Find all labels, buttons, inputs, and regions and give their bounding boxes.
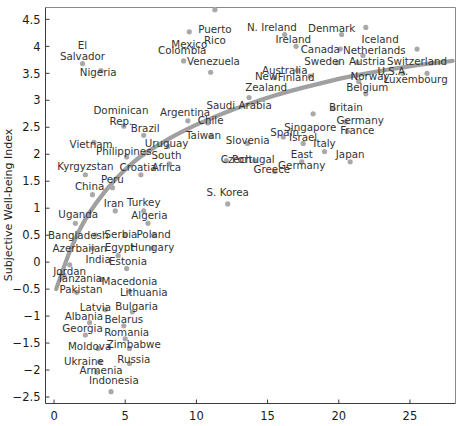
data-point-label: Italy [313,137,335,149]
y-axis-title: Subjective Well-being Index [2,128,15,281]
label-line: New [255,70,277,82]
data-point [414,46,419,51]
label-line: Luxembourg [384,73,448,85]
data-point-label: Lithuania [120,286,168,298]
label-line: Hungary [130,241,174,253]
label-line: Saudi Arabia [206,99,271,111]
label-line: Algeria [131,209,167,221]
data-point-label: Denmark [308,22,355,34]
y-tick-label: 4 [33,40,40,54]
data-point [187,29,192,34]
data-point-label: Serbia [105,228,138,240]
data-point [208,70,213,75]
label-line: Poland [137,228,171,240]
label-line: Moldova [68,340,111,352]
data-point-label: Sweden [304,55,345,67]
data-point-labels: PuertoRicoMexicoN. IrelandDenmarkIceland… [48,21,448,387]
label-line: Sweden [304,55,345,67]
label-line: Venezuela [187,55,240,67]
data-point-label: N. Ireland [247,21,297,33]
label-line: S. Korea [207,186,249,198]
data-point-label: Uganda [58,208,98,220]
data-point-label: Algeria [131,209,167,221]
label-line: Zealand [245,81,287,93]
label-line: Italy [313,137,335,149]
data-point-label: Estonia [109,255,147,267]
data-point [322,149,327,154]
x-tick-label: 5 [122,409,129,423]
label-line: Belarus [104,313,143,325]
data-point [124,266,129,271]
data-point [363,25,368,30]
label-line: Georgia [62,322,102,334]
label-line: Bulgaria [115,300,158,312]
data-point-label: Taiwan [185,129,221,141]
y-tick-label: −0.5 [13,282,41,296]
y-tick-label: 0 [33,255,40,269]
data-point-label: China [75,180,104,192]
data-point-label: Bulgaria [115,300,158,312]
label-line: Romania [104,326,149,338]
label-line: Pakistan [60,283,103,295]
x-axis-ticks: 0510152025 [50,400,417,423]
label-line: East [291,148,313,160]
label-line: Brazil [131,122,160,134]
y-tick-label: 4.5 [22,13,40,27]
label-line: India [86,253,111,265]
label-line: Estonia [109,255,147,267]
label-line: Slovenia [226,134,270,146]
data-point-label: Bangladesh [48,229,108,241]
x-tick-label: 15 [260,409,275,423]
x-tick-label: 25 [403,409,418,423]
label-line: China [75,180,104,192]
label-line: N. Ireland [247,21,297,33]
label-line: Britain [329,101,363,113]
x-tick-label: 20 [331,409,346,423]
data-point [212,7,217,12]
data-point [348,159,353,164]
data-point-label: Luxembourg [384,73,448,85]
label-line: Turkey [126,196,161,208]
label-line: Chile [198,114,224,126]
label-line: Taiwan [185,129,221,141]
x-tick-label: 10 [189,409,204,423]
data-point-label: Iran [104,197,124,209]
data-point-label: Croatia [120,161,157,173]
data-point-label: India [86,253,111,265]
y-tick-label: −1.5 [13,336,41,350]
data-point-label: Indonesia [89,374,139,386]
label-line: El [78,39,87,51]
data-point-label: Nigeria [80,66,117,78]
data-point-label: Peru [101,173,124,185]
data-point [225,201,230,206]
data-point-label: France [340,124,374,136]
label-line: Puerto [198,23,231,35]
label-line: Albania [65,310,103,322]
label-line: Rep. [110,115,133,127]
data-point-label: Saudi Arabia [206,99,271,111]
label-line: Bangladesh [48,229,108,241]
data-point-label: Belgium [346,81,388,93]
data-point-label: Greece [254,163,291,175]
y-tick-label: −2 [24,363,41,377]
y-tick-label: 0.5 [22,228,40,242]
data-point-label: Brazil [131,122,160,134]
data-point [73,221,78,226]
data-point [181,58,186,63]
y-axis-ticks: 4.543.532.521.510.50−0.5−1−1.5−2−2.5 [13,13,50,405]
label-line: Zimbabwe [107,338,161,350]
label-line: Nigeria [80,66,117,78]
y-tick-label: 2.5 [22,120,40,134]
data-point-label: Pakistan [60,283,103,295]
y-tick-label: 3.5 [22,67,40,81]
label-line: Uganda [58,208,98,220]
y-tick-label: 1 [33,201,40,215]
data-point [311,111,316,116]
data-point-label: Britain [329,101,363,113]
y-tick-label: −2.5 [13,390,41,404]
label-line: Dominican [93,104,148,116]
label-line: Kyrgyzstan [57,160,113,172]
label-line: France [340,124,374,136]
scatter-chart: 4.543.532.521.510.50−0.5−1−1.5−2−2.5 051… [0,0,464,426]
plot-canvas: 4.543.532.521.510.50−0.5−1−1.5−2−2.5 051… [0,0,464,426]
